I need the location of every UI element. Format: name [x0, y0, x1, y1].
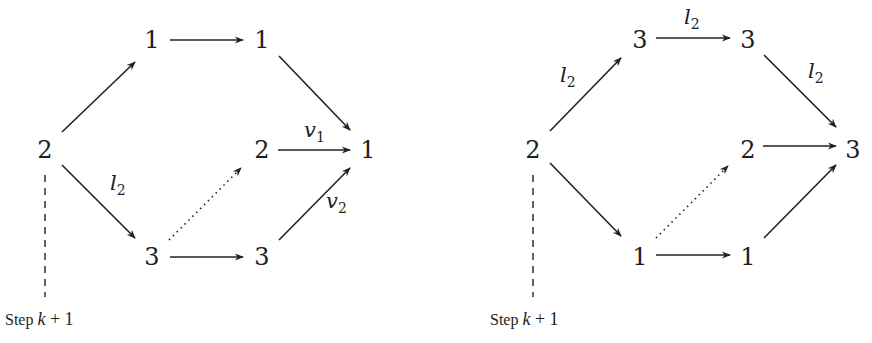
right-diagram: l2l2l22332311Step k + 1: [490, 5, 861, 329]
node-sink: 1: [360, 136, 375, 164]
edge-label: v2: [326, 189, 347, 216]
node-mid: 2: [254, 136, 269, 164]
node-sink: 3: [845, 136, 860, 164]
node-mid: 2: [740, 136, 755, 164]
node-bot1: 1: [632, 243, 647, 271]
node-top1: 3: [632, 26, 647, 54]
edge-root-to-bot1: [550, 163, 621, 236]
step-transition-diagrams: l2v1v22112133Step k + 1 l2l2l22332311Ste…: [0, 0, 872, 343]
step-label: Step k + 1: [5, 309, 74, 329]
node-bot2: 3: [254, 243, 269, 271]
node-top2: 1: [254, 26, 269, 54]
edge-bot1-to-mid: [656, 166, 728, 238]
edge-bot1-to-mid: [169, 168, 241, 240]
edge-root-to-top1: [62, 62, 135, 132]
node-root: 2: [37, 136, 52, 164]
left-diagram: l2v1v22112133Step k + 1: [5, 26, 376, 329]
edge-bot2-to-sink: [764, 165, 836, 238]
node-root: 2: [525, 136, 540, 164]
edge-label: l2: [808, 59, 824, 86]
step-label: Step k + 1: [490, 309, 559, 329]
edge-label: v1: [304, 118, 325, 145]
node-top1: 1: [144, 26, 159, 54]
edge-label: l2: [684, 5, 700, 32]
edge-top2-to-sink: [764, 55, 836, 127]
node-bot1: 3: [144, 243, 159, 271]
node-bot2: 1: [740, 243, 755, 271]
edge-label: l2: [560, 63, 576, 90]
node-top2: 3: [740, 26, 755, 54]
edge-root-to-bot1: [62, 165, 135, 238]
edge-label: l2: [110, 171, 126, 198]
